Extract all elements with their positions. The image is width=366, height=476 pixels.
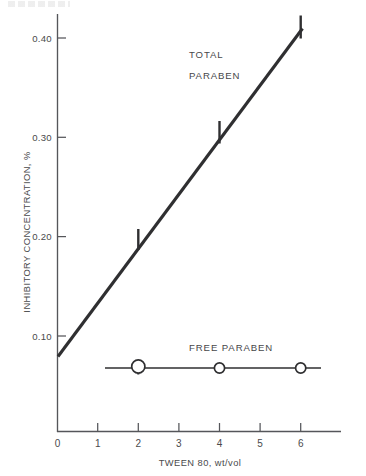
- y-axis-title: INHIBITORY CONCENTRATION, %: [22, 151, 32, 312]
- series-annotations: TOTAL PARABEN FREE PARABEN: [189, 49, 273, 353]
- annotation-paraben: PARABEN: [189, 70, 240, 81]
- y-tick-label: 0.40: [32, 33, 52, 44]
- chart-figure: 0.40 0.30 0.20 0.10 0 1 2 3 4 5 6 TWEEN …: [0, 0, 366, 476]
- annotation-total: TOTAL: [189, 49, 224, 60]
- series-total-paraben: [58, 16, 303, 357]
- y-axis-ticks: [58, 38, 67, 336]
- x-tick-label: 0: [55, 438, 61, 449]
- x-tick-label: 1: [95, 438, 101, 449]
- y-tick-label: 0.10: [32, 331, 52, 342]
- free-paraben-data-point: [296, 363, 306, 373]
- y-tick-label: 0.30: [32, 132, 52, 143]
- free-paraben-data-point: [214, 363, 224, 373]
- y-axis-tick-labels: 0.40 0.30 0.20 0.10: [32, 33, 52, 342]
- x-axis-title: TWEEN 80, wt/vol: [159, 458, 242, 468]
- series-free-paraben: [105, 360, 321, 375]
- annotation-free-paraben: FREE PARABEN: [189, 342, 273, 353]
- free-paraben-data-point: [132, 360, 145, 373]
- line-chart-plot: 0.40 0.30 0.20 0.10 0 1 2 3 4 5 6 TWEEN …: [0, 0, 366, 476]
- y-tick-label: 0.20: [32, 231, 52, 242]
- x-axis-tick-labels: 0 1 2 3 4 5 6: [55, 438, 304, 449]
- x-tick-label: 5: [257, 438, 263, 449]
- x-tick-label: 4: [217, 438, 223, 449]
- total-paraben-trend-line: [58, 29, 303, 357]
- x-tick-label: 3: [176, 438, 182, 449]
- x-tick-label: 2: [136, 438, 142, 449]
- x-tick-label: 6: [298, 438, 304, 449]
- x-axis-ticks: [98, 423, 301, 432]
